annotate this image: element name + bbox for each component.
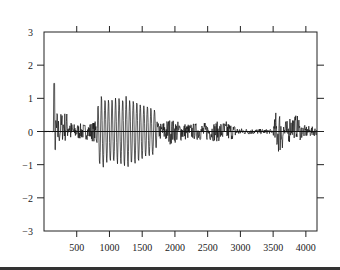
y-tick-label: −3 xyxy=(22,226,33,237)
y-tick-label: −1 xyxy=(22,160,33,171)
x-tick-label: 4000 xyxy=(296,242,316,253)
y-tick-label: 2 xyxy=(28,60,33,71)
y-tick-label: −2 xyxy=(22,193,33,204)
x-tick-label: 2000 xyxy=(165,242,185,253)
x-tick-label: 2500 xyxy=(198,242,218,253)
y-tick-label: 1 xyxy=(28,93,33,104)
x-tick-label: 3500 xyxy=(263,242,283,253)
x-tick-label: 1500 xyxy=(132,242,152,253)
line-chart: 50010001500200025003000350040003210−1−2−… xyxy=(0,0,340,270)
y-tick-label: 0 xyxy=(28,127,33,138)
y-tick-label: 3 xyxy=(28,27,33,38)
x-tick-label: 1000 xyxy=(99,242,119,253)
x-tick-label: 3000 xyxy=(230,242,250,253)
x-tick-label: 500 xyxy=(69,242,84,253)
